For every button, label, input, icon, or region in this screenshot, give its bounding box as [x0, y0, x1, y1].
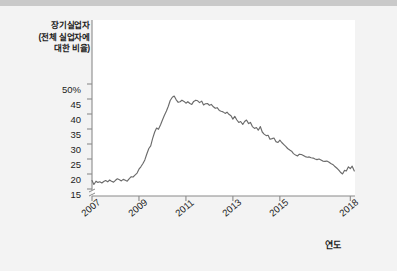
y-tick-label: 20 — [41, 174, 81, 185]
chart-figure: 장기실업자 (전체 실업자에 대한 비율) 연도 50%454035302520… — [0, 6, 397, 271]
y-tick-label: 30 — [41, 144, 81, 155]
y-tick-label: 25 — [41, 159, 81, 170]
y-tick-label: 50% — [41, 84, 81, 95]
y-tick-label: 15 — [41, 189, 81, 200]
y-tick-label: 40 — [41, 114, 81, 125]
y-tick-label: 35 — [41, 129, 81, 140]
plot-area-background — [92, 20, 355, 196]
y-axis-tick-marks — [87, 84, 92, 189]
x-axis-tick-marks — [92, 196, 350, 201]
y-tick-label: 45 — [41, 99, 81, 110]
figure-page: 장기실업자 (전체 실업자에 대한 비율) 연도 50%454035302520… — [0, 0, 397, 271]
